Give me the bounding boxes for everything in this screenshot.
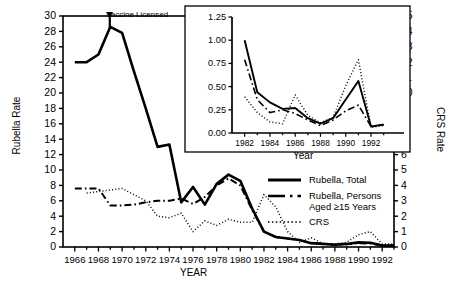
- svg-text:18: 18: [44, 102, 56, 114]
- svg-text:16: 16: [44, 117, 56, 129]
- svg-text:2: 2: [50, 225, 56, 237]
- svg-text:22: 22: [44, 71, 56, 83]
- svg-text:1984: 1984: [261, 138, 280, 148]
- figure-root: Rubella Rate CRS Rate YEAR Rate Year Vac…: [0, 0, 458, 293]
- svg-text:1976: 1976: [182, 254, 203, 265]
- svg-text:1986: 1986: [301, 254, 322, 265]
- svg-text:10: 10: [44, 163, 56, 175]
- svg-text:2: 2: [401, 210, 407, 222]
- svg-text:26: 26: [44, 40, 56, 52]
- svg-text:1966: 1966: [64, 254, 85, 265]
- svg-text:1988: 1988: [324, 254, 345, 265]
- svg-text:0.50: 0.50: [208, 82, 226, 92]
- svg-text:12: 12: [44, 148, 56, 160]
- svg-text:4: 4: [50, 210, 56, 222]
- svg-text:30: 30: [44, 9, 56, 21]
- svg-text:20: 20: [44, 86, 56, 98]
- svg-text:1984: 1984: [277, 254, 299, 265]
- svg-text:1986: 1986: [286, 138, 305, 148]
- svg-text:0.25: 0.25: [208, 105, 226, 115]
- svg-text:1: 1: [401, 225, 407, 237]
- svg-text:1972: 1972: [135, 254, 156, 265]
- svg-text:1970: 1970: [111, 254, 132, 265]
- svg-text:1990: 1990: [336, 138, 355, 148]
- svg-text:0: 0: [401, 240, 407, 252]
- svg-text:1968: 1968: [88, 254, 109, 265]
- svg-text:3: 3: [401, 194, 407, 206]
- svg-text:4: 4: [401, 179, 407, 191]
- legend-key-group: [268, 180, 301, 222]
- series-line: [75, 178, 394, 245]
- svg-text:28: 28: [44, 25, 56, 37]
- svg-text:1978: 1978: [206, 254, 227, 265]
- svg-text:24: 24: [44, 56, 56, 68]
- svg-text:1.25: 1.25: [208, 12, 226, 22]
- svg-text:1982: 1982: [235, 138, 254, 148]
- svg-text:6: 6: [50, 194, 56, 206]
- series-line: [87, 188, 394, 243]
- svg-text:1.00: 1.00: [208, 35, 226, 45]
- svg-text:1974: 1974: [159, 254, 181, 265]
- svg-text:1980: 1980: [230, 254, 251, 265]
- svg-text:0: 0: [50, 240, 56, 252]
- svg-text:8: 8: [50, 179, 56, 191]
- svg-text:0.00: 0.00: [208, 128, 226, 138]
- svg-text:1988: 1988: [311, 138, 330, 148]
- svg-text:5: 5: [401, 163, 407, 175]
- chart-canvas: 0246810121416182022242628300123456789101…: [0, 0, 458, 293]
- svg-text:1992: 1992: [372, 254, 393, 265]
- svg-text:1992: 1992: [362, 138, 381, 148]
- svg-text:0.75: 0.75: [208, 58, 226, 68]
- svg-text:1982: 1982: [253, 254, 274, 265]
- svg-text:1990: 1990: [348, 254, 369, 265]
- svg-text:14: 14: [44, 133, 56, 145]
